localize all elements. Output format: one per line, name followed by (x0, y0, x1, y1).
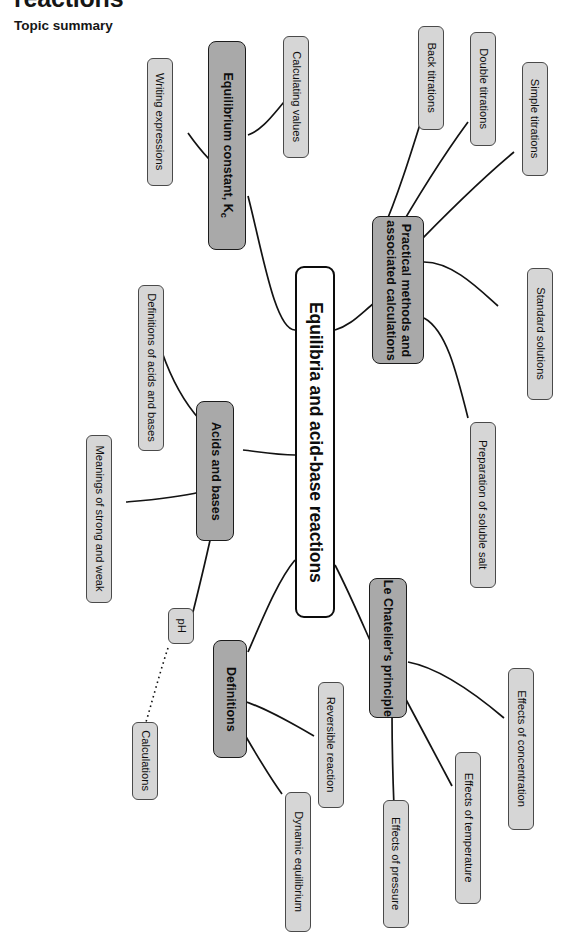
leaf-writing-expressions-label: Writing expressions (153, 73, 166, 170)
leaf-calculations-label: Calculations (138, 731, 151, 792)
branch-equilibrium-constant-text: Equilibrium constant, K (221, 73, 235, 213)
leaf-standard-solutions[interactable]: Standard solutions (527, 268, 553, 400)
leaf-preparation-soluble-salt[interactable]: Preparation of soluble salt (470, 422, 496, 588)
leaf-effects-of-concentration-label: Effects of concentration (514, 691, 527, 808)
page-title-clipped: reactions (14, 0, 123, 13)
leaf-effects-of-pressure[interactable]: Effects of pressure (383, 800, 409, 928)
leaf-effects-of-pressure-label: Effects of pressure (389, 817, 402, 910)
branch-practical-methods-line2: associated calculations (384, 220, 398, 360)
branch-equilibrium-constant-label: Equilibrium constant, Kc (219, 73, 235, 218)
leaf-ph[interactable]: pH (168, 608, 194, 644)
link-root-acids-bases (243, 450, 295, 455)
branch-le-chateliers-principle[interactable]: Le Chatelier's principle (369, 578, 407, 718)
leaf-reversible-reaction-label: Reversible reaction (324, 697, 337, 793)
leaf-calculations[interactable]: Calculations (132, 722, 158, 800)
link-root-definitions (248, 560, 295, 652)
link-acids-definitions-acids-bases (162, 352, 200, 420)
link-practical-standard-solutions (424, 262, 498, 306)
leaf-simple-titrations[interactable]: Simple titrations (522, 62, 548, 176)
link-lechatelier-effects-concentration (408, 662, 504, 718)
root-node[interactable]: Equilibria and acid-base reactions (295, 266, 335, 618)
branch-acids-and-bases-label: Acids and bases (208, 422, 223, 521)
leaf-dynamic-equilibrium[interactable]: Dynamic equilibrium (285, 792, 311, 932)
leaf-dynamic-equilibrium-label: Dynamic equilibrium (291, 812, 304, 913)
leaf-calculating-values[interactable]: Calculating values (283, 36, 309, 158)
section-heading: Topic summary (14, 18, 113, 33)
link-ph-calculations (146, 648, 168, 722)
link-root-equilibrium-constant (248, 196, 295, 330)
branch-practical-methods-line1: Practical methods and (399, 223, 413, 356)
link-definitions-reversible-reaction (240, 700, 314, 736)
link-kc-calculating-values (248, 102, 284, 135)
leaf-effects-of-temperature[interactable]: Effects of temperature (455, 752, 481, 904)
leaf-back-titrations-label: Back titrations (424, 43, 437, 113)
link-acids-meanings-strong-weak (126, 492, 200, 502)
branch-practical-methods[interactable]: Practical methods andassociated calculat… (372, 216, 424, 364)
leaf-simple-titrations-label: Simple titrations (528, 79, 541, 159)
branch-definitions[interactable]: Definitions (213, 640, 247, 758)
leaf-double-titrations[interactable]: Double titrations (470, 32, 496, 146)
link-root-le-chateliers (335, 565, 372, 645)
branch-equilibrium-constant[interactable]: Equilibrium constant, Kc (208, 41, 246, 250)
branch-practical-methods-label: Practical methods andassociated calculat… (384, 220, 413, 360)
leaf-effects-of-concentration[interactable]: Effects of concentration (508, 668, 534, 830)
leaf-back-titrations[interactable]: Back titrations (418, 26, 444, 130)
leaf-double-titrations-label: Double titrations (476, 49, 489, 130)
link-practical-preparation-soluble-salt (424, 318, 468, 418)
branch-le-chateliers-principle-label: Le Chatelier's principle (381, 579, 396, 716)
link-lechatelier-effects-temperature (402, 692, 452, 786)
leaf-meanings-of-strong-and-weak[interactable]: Meanings of strong and weak (86, 435, 112, 603)
leaf-preparation-soluble-salt-label: Preparation of soluble salt (476, 440, 489, 569)
leaf-reversible-reaction[interactable]: Reversible reaction (318, 682, 344, 808)
leaf-calculating-values-label: Calculating values (289, 52, 302, 143)
leaf-standard-solutions-label: Standard solutions (533, 288, 546, 381)
branch-equilibrium-constant-subscript: c (220, 213, 230, 218)
leaf-definitions-of-acids-and-bases-label: Definitions of acids and bases (144, 294, 157, 443)
branch-definitions-label: Definitions (223, 667, 238, 732)
leaf-writing-expressions[interactable]: Writing expressions (147, 58, 173, 186)
branch-acids-and-bases[interactable]: Acids and bases (196, 401, 234, 541)
leaf-ph-label: pH (174, 619, 187, 633)
root-node-label: Equilibria and acid-base reactions (305, 302, 326, 583)
leaf-effects-of-temperature-label: Effects of temperature (461, 773, 474, 883)
mindmap-page: reactions Topic summary (0, 0, 566, 938)
leaf-meanings-of-strong-and-weak-label: Meanings of strong and weak (92, 446, 105, 592)
leaf-definitions-of-acids-and-bases[interactable]: Definitions of acids and bases (138, 285, 164, 451)
